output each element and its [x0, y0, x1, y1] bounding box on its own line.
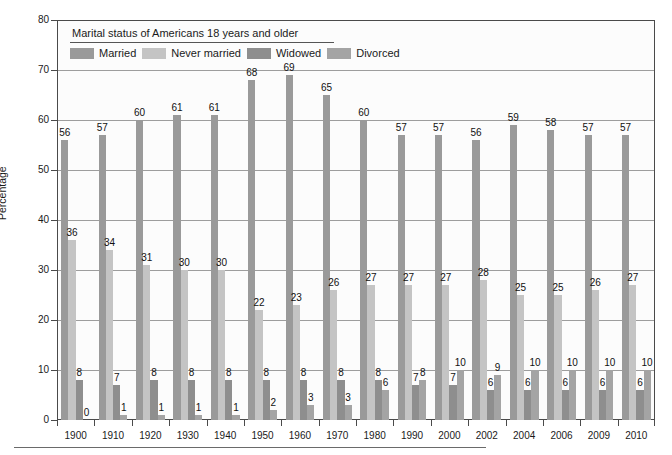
x-axis-tick-mark [207, 420, 208, 426]
bar-married-2006 [547, 130, 554, 420]
bar-value-label: 3 [337, 393, 359, 403]
gridline [58, 220, 654, 221]
bar-widowed-2002 [487, 390, 494, 420]
bar-never-married-1910 [106, 250, 113, 420]
y-axis-tick-label: 0 [43, 415, 49, 425]
bar-value-label: 30 [211, 258, 233, 268]
x-axis-tick-label: 1960 [281, 430, 318, 441]
bar-value-label: 58 [540, 118, 562, 128]
x-axis-tick-label: 2002 [468, 430, 505, 441]
y-axis-tick-label: 10 [38, 365, 49, 375]
legend-item-divorced[interactable]: Divorced [327, 47, 399, 59]
bar-value-label: 69 [278, 63, 300, 73]
x-axis-tick-mark [654, 420, 655, 426]
bar-value-label: 8 [218, 368, 240, 378]
x-axis-tick-label: 1910 [94, 430, 131, 441]
bar-widowed-2000 [449, 385, 456, 420]
x-axis-tick-label: 1950 [244, 430, 281, 441]
bar-never-married-1900 [68, 240, 75, 420]
bar-value-label: 9 [487, 363, 509, 373]
x-axis-tick-label: 2004 [506, 430, 543, 441]
bar-divorced-2009 [606, 370, 613, 420]
legend-item-widowed[interactable]: Widowed [247, 47, 321, 59]
x-axis-tick-label: 1930 [169, 430, 206, 441]
bar-value-label: 68 [241, 68, 263, 78]
bar-divorced-2006 [569, 370, 576, 420]
bar-value-label: 26 [323, 278, 345, 288]
bar-value-label: 27 [397, 273, 419, 283]
bar-divorced-1990 [419, 380, 426, 420]
legend-item-label: Divorced [356, 47, 399, 59]
bar-value-label: 10 [449, 358, 471, 368]
legend-swatch-icon [70, 48, 94, 59]
bar-value-label: 8 [330, 368, 352, 378]
bar-widowed-2006 [562, 390, 569, 420]
bar-value-label: 10 [636, 358, 658, 368]
bar-value-label: 61 [166, 103, 188, 113]
bar-value-label: 56 [465, 128, 487, 138]
x-axis-tick-label: 2006 [543, 430, 580, 441]
legend-swatch-icon [327, 48, 351, 59]
x-axis-tick-label: 1920 [132, 430, 169, 441]
gridline [58, 170, 654, 171]
gridline [58, 70, 654, 71]
x-axis-tick-label: 2009 [580, 430, 617, 441]
legend-item-never-married[interactable]: Never married [142, 47, 241, 59]
bar-never-married-2000 [442, 285, 449, 420]
legend-items: MarriedNever marriedWidowedDivorced [70, 47, 334, 59]
bar-value-label: 26 [584, 278, 606, 288]
bar-never-married-1930 [181, 270, 188, 420]
bar-divorced-1940 [232, 415, 239, 420]
x-axis-tick-label: 1990 [393, 430, 430, 441]
bar-value-label: 57 [428, 123, 450, 133]
bar-widowed-1920 [150, 380, 157, 420]
bar-value-label: 23 [285, 293, 307, 303]
bar-value-label: 7 [106, 373, 128, 383]
x-axis-tick-mark [94, 420, 95, 426]
legend-item-label: Married [99, 47, 136, 59]
bar-value-label: 36 [61, 228, 83, 238]
bar-widowed-1930 [188, 380, 195, 420]
x-axis-tick-mark [132, 420, 133, 426]
bar-value-label: 34 [98, 238, 120, 248]
y-axis-tick-label: 80 [38, 15, 49, 25]
bar-divorced-1980 [382, 390, 389, 420]
bar-value-label: 59 [502, 113, 524, 123]
bar-divorced-2002 [494, 375, 501, 420]
bar-value-label: 10 [599, 358, 621, 368]
legend-item-married[interactable]: Married [70, 47, 136, 59]
chart-root: Percentage 01020304050607080 Marital sta… [0, 0, 672, 455]
x-axis-tick-mark [393, 420, 394, 426]
legend-divider [70, 42, 334, 43]
x-axis-tick-label: 1940 [207, 430, 244, 441]
bar-value-label: 10 [561, 358, 583, 368]
bar-value-label: 28 [472, 268, 494, 278]
bar-value-label: 6 [374, 378, 396, 388]
bar-value-label: 57 [577, 123, 599, 133]
x-axis-tick-mark [580, 420, 581, 426]
x-axis-tick-mark [319, 420, 320, 426]
bar-value-label: 57 [390, 123, 412, 133]
footer-divider [14, 447, 486, 448]
bar-value-label: 57 [615, 123, 637, 133]
bar-value-label: 1 [188, 403, 210, 413]
x-axis-tick-mark [244, 420, 245, 426]
x-axis-tick-mark [57, 420, 58, 426]
bar-value-label: 2 [262, 398, 284, 408]
chart-legend: Marital status of Americans 18 years and… [64, 22, 340, 62]
bar-widowed-2009 [599, 390, 606, 420]
y-axis-tick-label: 20 [38, 315, 49, 325]
legend-item-label: Widowed [276, 47, 321, 59]
bar-value-label: 60 [129, 108, 151, 118]
bar-value-label: 60 [353, 108, 375, 118]
bar-value-label: 30 [173, 258, 195, 268]
y-axis-tick-label: 40 [38, 215, 49, 225]
legend-item-label: Never married [171, 47, 241, 59]
x-axis-tick-label: 2000 [431, 430, 468, 441]
bar-widowed-2004 [524, 390, 531, 420]
bar-value-label: 1 [113, 403, 135, 413]
gridline [58, 120, 654, 121]
bar-value-label: 31 [136, 253, 158, 263]
bar-never-married-2010 [629, 285, 636, 420]
x-axis-tick-mark [468, 420, 469, 426]
